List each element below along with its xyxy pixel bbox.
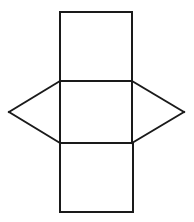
figure-canvas: [0, 0, 194, 222]
face-bottom-square: [60, 143, 133, 212]
geometric-net-diagram: [0, 0, 194, 222]
face-middle-square: [60, 81, 132, 143]
face-top-square: [60, 12, 132, 81]
